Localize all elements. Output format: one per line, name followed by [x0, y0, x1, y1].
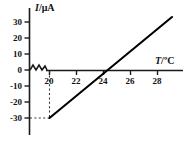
y-tick-label-m30: -30: [0, 113, 22, 123]
data-series-line: [50, 17, 173, 118]
x-tick-label-28: 28: [148, 76, 166, 86]
x-tick-label-24: 24: [94, 76, 112, 86]
y-tick-label-10: 10: [0, 49, 22, 59]
chart-container: I/μA T/ºC 30 20 10 0 -10 -20 -30 20 22 2…: [0, 0, 186, 141]
y-tick-label-20: 20: [0, 33, 22, 43]
x-axis-title: T/ºC: [155, 55, 174, 66]
y-axis-title: I/μA: [35, 2, 55, 13]
x-tick-label-20: 20: [40, 76, 58, 86]
y-axis-unit: /μA: [39, 2, 55, 13]
x-tick-label-22: 22: [67, 76, 85, 86]
y-tick-label-30: 30: [0, 17, 22, 27]
y-tick-label-0: 0: [0, 65, 22, 75]
x-tick-label-26: 26: [121, 76, 139, 86]
y-tick-label-m20: -20: [0, 97, 22, 107]
x-axis-unit: /ºC: [161, 55, 174, 66]
x-axis-break-zigzag: [30, 65, 47, 70]
y-tick-label-m10: -10: [0, 81, 22, 91]
chart-plot-area: [0, 0, 186, 141]
